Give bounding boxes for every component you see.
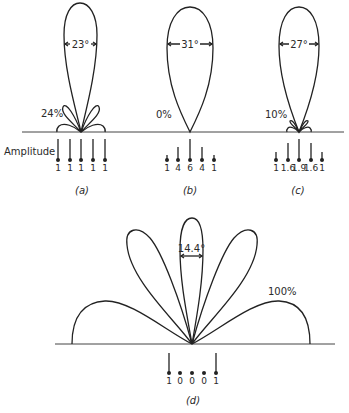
sidelobe-level-label: 10% xyxy=(265,109,287,120)
amplitude-value: 0 xyxy=(189,376,195,386)
panel-caption: (b) xyxy=(183,185,197,196)
amplitude-value: 6 xyxy=(187,163,193,173)
amplitude-value: 1 xyxy=(78,163,84,173)
panel-c: 27° 10% 1 1.6 1.9 1.6 1 (c) xyxy=(265,7,325,196)
amplitude-value: 1 xyxy=(211,163,217,173)
panel-caption: (c) xyxy=(291,185,304,196)
amplitude-value: 1 xyxy=(90,163,96,173)
amplitude-value: 1 xyxy=(213,376,219,386)
array-elements xyxy=(56,139,107,162)
sidelobe-level-label: 100% xyxy=(268,286,297,297)
amplitude-label: Amplitude xyxy=(4,146,55,157)
amplitude-value: 0 xyxy=(177,376,183,386)
amplitude-value: 1 xyxy=(55,163,61,173)
amplitude-value: 1 xyxy=(166,376,172,386)
amplitude-value: 4 xyxy=(175,163,181,173)
panel-caption: (a) xyxy=(75,185,89,196)
array-elements xyxy=(274,139,324,162)
array-elements xyxy=(165,139,216,162)
amplitude-value: 4 xyxy=(199,163,205,173)
array-elements xyxy=(167,353,218,375)
beamwidth-label: 27° xyxy=(290,39,308,50)
sidelobe-level-label: 0% xyxy=(156,109,172,120)
amplitude-value: 1 xyxy=(102,163,108,173)
amplitude-value: 1.6 xyxy=(304,163,319,173)
amplitude-value: 1 xyxy=(273,163,279,173)
amplitude-value: 0 xyxy=(201,376,207,386)
antenna-array-pattern-figure: 23° 24% Amplitude 1 1 1 1 1 (a) 31° 0% xyxy=(0,0,349,413)
sidelobe-level-label: 24% xyxy=(41,108,63,119)
panel-b: 31° 0% 1 4 6 4 1 (b) xyxy=(156,7,217,196)
panel-d: 14.4° 100% 1 0 0 0 1 (d) xyxy=(55,218,335,406)
panel-a: 23° 24% Amplitude 1 1 1 1 1 (a) xyxy=(4,3,108,196)
amplitude-value: 1 xyxy=(319,163,325,173)
amplitude-value: 1 xyxy=(67,163,73,173)
main-lobe xyxy=(64,3,97,132)
main-lobe xyxy=(180,218,203,344)
panel-caption: (d) xyxy=(186,395,200,406)
beamwidth-label: 31° xyxy=(181,39,199,50)
amplitude-value: 1 xyxy=(164,163,170,173)
main-lobe xyxy=(167,7,213,132)
beamwidth-label: 14.4° xyxy=(178,243,205,254)
beamwidth-label: 23° xyxy=(72,39,90,50)
